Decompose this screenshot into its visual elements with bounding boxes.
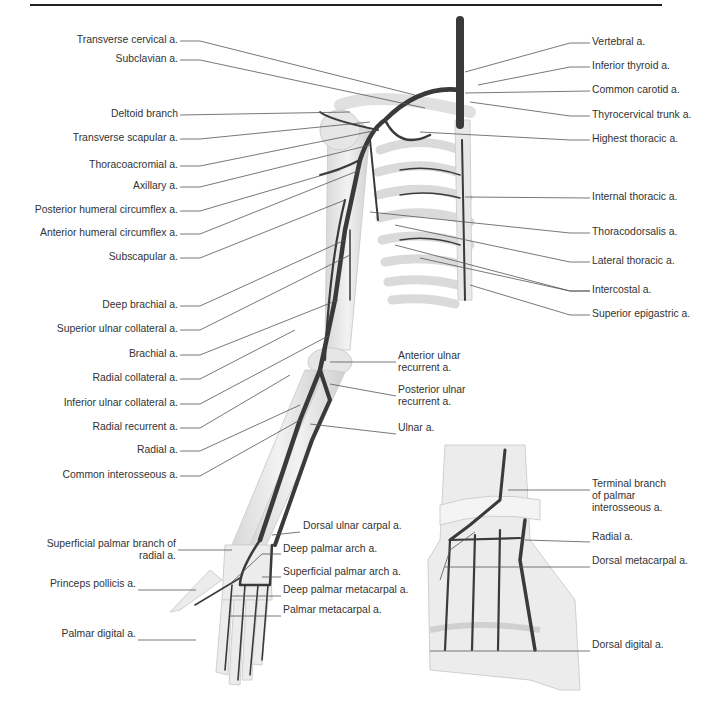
label-terminal-branch-of-palmar-interosseous-a: Terminal branchof palmarinterosseous a. xyxy=(592,478,666,514)
label-transverse-scapular-a: Transverse scapular a. xyxy=(73,132,178,144)
label-line: Superficial palmar branch of xyxy=(47,538,176,550)
label-subclavian-a: Subclavian a. xyxy=(116,53,178,65)
label-transverse-cervical-a: Transverse cervical a. xyxy=(77,34,178,46)
label-line: Terminal branch xyxy=(592,478,666,490)
label-brachial-a: Brachial a. xyxy=(129,348,178,360)
label-deltoid-branch: Deltoid branch xyxy=(111,108,178,120)
palmar-hand xyxy=(170,545,272,685)
label-deep-palmar-metacarpal-a: Deep palmar metacarpal a. xyxy=(283,584,408,596)
label-radial-a: Radial a. xyxy=(592,531,633,543)
label-line: Princeps pollicis a. xyxy=(50,578,136,590)
label-line: recurrent a. xyxy=(398,362,460,374)
label-anterior-ulnar-recurrent-a: Anterior ulnarrecurrent a. xyxy=(398,350,460,374)
label-dorsal-digital-a: Dorsal digital a. xyxy=(592,639,664,651)
label-thyrocervical-trunk-a: Thyrocervical trunk a. xyxy=(592,109,691,121)
label-line: Dorsal metacarpal a. xyxy=(592,555,688,567)
label-common-carotid-a: Common carotid a. xyxy=(592,84,680,96)
label-line: Posterior ulnar xyxy=(398,384,466,396)
dorsal-hand xyxy=(428,445,580,690)
label-thoracoacromial-a: Thoracoacromial a. xyxy=(89,159,178,171)
label-superior-ulnar-collateral-a: Superior ulnar collateral a. xyxy=(57,323,178,335)
label-deep-brachial-a: Deep brachial a. xyxy=(102,299,178,311)
label-line: of palmar xyxy=(592,490,666,502)
label-posterior-ulnar-recurrent-a: Posterior ulnarrecurrent a. xyxy=(398,384,466,408)
label-lateral-thoracic-a: Lateral thoracic a. xyxy=(592,255,675,267)
label-radial-recurrent-a: Radial recurrent a. xyxy=(93,421,178,433)
anatomy-figure: Transverse cervical a.Subclavian a.Delto… xyxy=(0,0,721,714)
label-superior-epigastric-a: Superior epigastric a. xyxy=(592,308,690,320)
label-deep-palmar-arch-a: Deep palmar arch a. xyxy=(283,543,377,555)
label-line: Anterior ulnar xyxy=(398,350,460,362)
label-line: Palmar digital a. xyxy=(61,628,136,640)
label-dorsal-metacarpal-a: Dorsal metacarpal a. xyxy=(592,555,688,567)
label-princeps-pollicis-a: Princeps pollicis a. xyxy=(50,578,136,590)
label-intercostal-a: Intercostal a. xyxy=(592,284,652,296)
label-inferior-thyroid-a: Inferior thyroid a. xyxy=(592,60,670,72)
label-ulnar-a: Ulnar a. xyxy=(398,422,434,434)
label-radial-collateral-a: Radial collateral a. xyxy=(93,372,178,384)
label-subscapular-a: Subscapular a. xyxy=(109,251,178,263)
label-thoracodorsalis-a: Thoracodorsalis a. xyxy=(592,226,677,238)
label-dorsal-ulnar-carpal-a: Dorsal ulnar carpal a. xyxy=(303,520,402,532)
label-line: recurrent a. xyxy=(398,396,466,408)
label-vertebral-a: Vertebral a. xyxy=(592,36,645,48)
label-anterior-humeral-circumflex-a: Anterior humeral circumflex a. xyxy=(40,227,178,239)
label-posterior-humeral-circumflex-a: Posterior humeral circumflex a. xyxy=(35,204,178,216)
label-line: Radial a. xyxy=(592,531,633,543)
label-line: interosseous a. xyxy=(592,502,666,514)
label-internal-thoracic-a: Internal thoracic a. xyxy=(592,191,677,203)
label-radial-a: Radial a. xyxy=(137,444,178,456)
label-palmar-metacarpal-a: Palmar metacarpal a. xyxy=(283,604,382,616)
label-line: Dorsal digital a. xyxy=(592,639,664,651)
label-superficial-palmar-arch-a: Superficial palmar arch a. xyxy=(283,566,401,578)
label-common-interosseous-a: Common interosseous a. xyxy=(62,469,178,481)
label-inferior-ulnar-collateral-a: Inferior ulnar collateral a. xyxy=(64,397,178,409)
label-line: Ulnar a. xyxy=(398,422,434,434)
label-axillary-a: Axillary a. xyxy=(133,180,178,192)
label-highest-thoracic-a: Highest thoracic a. xyxy=(592,133,678,145)
label-palmar-digital-a: Palmar digital a. xyxy=(61,628,136,640)
label-superficial-palmar-branch-of-radial-a: Superficial palmar branch ofradial a. xyxy=(47,538,176,562)
label-line: radial a. xyxy=(47,550,176,562)
